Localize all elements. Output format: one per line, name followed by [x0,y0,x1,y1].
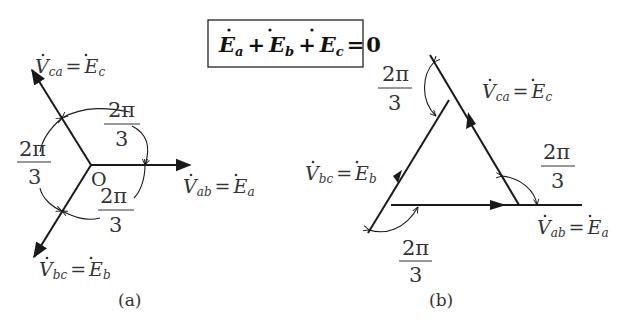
svg-text:2π: 2π [382,62,409,86]
phasor-vca-b [430,55,519,205]
angle-arc [425,62,437,116]
label-vbc-eb-b: Vbc=Eb [305,161,377,186]
svg-text:3: 3 [551,169,564,193]
angle-arc [134,165,145,198]
angle-arc [502,176,537,205]
arrow-head-icon [490,200,506,210]
angle-label-b-top: 2π 3 [378,62,412,115]
svg-text:2π: 2π [543,140,570,164]
svg-text:2π: 2π [19,137,46,161]
angle-label-b-bottom: 2π 3 [399,236,432,287]
equation-box: Ea+Eb+Ec=0 [208,20,381,67]
caption-a: (a) [118,290,141,310]
label-vbc-eb-a: Vbc=Eb [39,257,111,282]
arrow-head-icon [466,112,476,129]
svg-text:Vbc=Eb: Vbc=Eb [39,258,111,282]
label-vab-ea-b: Vab=Ea [537,215,609,240]
angle-arc [40,188,62,211]
svg-text:Vab=Ea: Vab=Ea [537,216,609,240]
svg-text:Vab=Ea: Vab=Ea [183,175,255,199]
dot-icon [227,28,230,31]
phasor-diagram: Ea+Eb+Ec=0 2π 3 2π 3 2π 3 O Vca=Ec [0,0,622,322]
svg-text:3: 3 [28,165,41,189]
svg-text:Vbc=Eb: Vbc=Eb [305,162,377,186]
angle-arc [132,126,148,165]
svg-text:2π: 2π [108,98,135,122]
svg-text:Vca=Ec: Vca=Ec [482,80,552,104]
angle-arc [62,211,100,219]
svg-text:3: 3 [109,213,122,237]
svg-text:3: 3 [388,91,401,115]
angle-label-b-right: 2π 3 [541,140,575,193]
dot-icon [268,28,271,31]
phasor-vbc-b [368,100,449,233]
dot-icon [310,28,313,31]
label-vca-ec-a: Vca=Ec [35,54,105,79]
caption-b: (b) [429,290,453,310]
origin-label: O [91,168,107,190]
angle-label-a-left: 2π 3 [17,137,51,189]
angle-label-a-bottom: 2π 3 [98,184,134,237]
svg-text:Vca=Ec: Vca=Ec [35,55,105,79]
svg-text:3: 3 [115,127,128,151]
label-vab-ea-a: Vab=Ea [183,174,255,199]
angle-label-a-top: 2π 3 [104,98,140,151]
label-vca-ec-b: Vca=Ec [482,79,552,104]
svg-text:3: 3 [409,263,422,287]
svg-text:2π: 2π [402,236,429,260]
